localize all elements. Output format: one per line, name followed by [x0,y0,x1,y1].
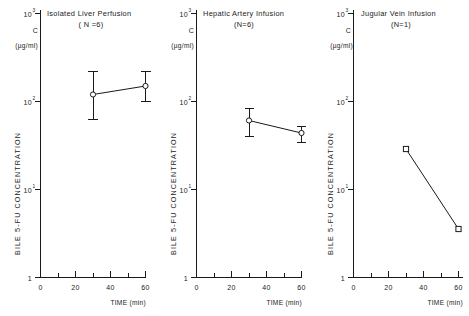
panel-1-plot: 10 3 10 2 10 1 1 C (µg/ml) BILE 5-FU CON… [0,0,156,316]
y-tick-label-1000: 10 [180,11,188,18]
y-tick-exponent-10: 1 [345,184,348,189]
y-tick-exponent-10: 1 [33,184,36,189]
y-tick-exponent-1000: 3 [189,8,192,13]
panel-subtitle: (N=1) [391,20,411,29]
panel-title: Isolated Liver Perfusion [47,9,131,18]
x-tick-label-20: 20 [71,284,79,291]
y-tick-label-1: 1 [340,275,344,282]
y-tick-label-10: 10 [24,187,32,194]
y-tick-label-1000: 10 [336,11,344,18]
y-tick-label-100: 10 [24,99,32,106]
panel-subtitle: (N=6) [234,20,254,29]
figure-three-panel-chart: 10 3 10 2 10 1 1 C (µg/ml) BILE 5-FU CON… [0,0,469,316]
panel-title: Jugular Vein Infusion [361,9,436,18]
y-axis-symbol: C [345,27,350,34]
x-tick-label-40: 40 [263,284,271,291]
x-axis-title: TIME (min) [267,299,303,307]
data-point-marker [403,146,408,151]
y-tick-exponent-100: 2 [33,96,36,101]
data-point-marker [299,130,304,135]
panel-subtitle: ( N =6) [79,20,104,29]
panel-hepatic-artery-infusion: 10 3 10 2 10 1 1 C (µg/ml) BILE 5-FU CON… [156,0,312,316]
series-line [93,86,146,95]
y-axis-symbol: C [189,27,194,34]
panel-2-plot: 10 3 10 2 10 1 1 C (µg/ml) BILE 5-FU CON… [156,0,312,316]
x-axis-title: TIME (min) [427,299,463,307]
y-axis-unit: (µg/ml) [15,42,38,50]
series-line [249,121,302,134]
y-tick-exponent-100: 2 [345,96,348,101]
y-tick-label-100: 10 [336,99,344,106]
x-tick-label-60: 60 [454,284,462,291]
panel-jugular-vein-infusion: 10 3 10 2 10 1 1 C (µg/ml) BILE 5-FU CON… [313,0,469,316]
x-tick-label-0: 0 [351,284,355,291]
x-tick-label-40: 40 [106,284,114,291]
series-line [406,149,459,229]
y-tick-label-1000: 10 [24,11,32,18]
y-axis-title: BILE 5-FU CONCENTRATION [13,132,22,255]
y-tick-label-1: 1 [184,275,188,282]
y-tick-label-100: 10 [180,99,188,106]
data-point-marker [456,226,461,231]
data-point-marker [247,118,252,123]
x-tick-label-20: 20 [228,284,236,291]
x-tick-label-60: 60 [141,284,149,291]
data-point-marker [143,83,148,88]
y-tick-exponent-1000: 3 [345,8,348,13]
y-axis-title: BILE 5-FU CONCENTRATION [326,132,335,255]
x-tick-label-0: 0 [195,284,199,291]
y-tick-exponent-10: 1 [189,184,192,189]
x-tick-label-20: 20 [384,284,392,291]
y-tick-exponent-1000: 3 [33,8,36,13]
y-axis-title: BILE 5-FU CONCENTRATION [169,132,178,255]
y-tick-label-10: 10 [180,187,188,194]
panel-isolated-liver-perfusion: 10 3 10 2 10 1 1 C (µg/ml) BILE 5-FU CON… [0,0,156,316]
data-point-marker [90,92,95,97]
y-tick-exponent-100: 2 [189,96,192,101]
y-axis-unit: (µg/ml) [172,42,195,50]
panel-title: Hepatic Artery Infusion [203,9,284,18]
panel-3-plot: 10 3 10 2 10 1 1 C (µg/ml) BILE 5-FU CON… [313,0,469,316]
y-tick-label-10: 10 [336,187,344,194]
y-tick-label-1: 1 [28,275,32,282]
x-tick-label-40: 40 [419,284,427,291]
y-axis-symbol: C [33,27,38,34]
x-tick-label-60: 60 [298,284,306,291]
x-axis-title: TIME (min) [110,299,146,307]
x-tick-label-0: 0 [38,284,42,291]
y-axis-unit: (µg/ml) [330,42,353,50]
